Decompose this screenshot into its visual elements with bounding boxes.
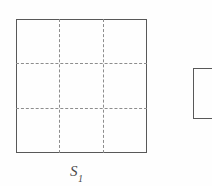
square-s1-outline — [16, 19, 147, 153]
square-s1-label-base: S — [70, 163, 78, 179]
square-s1-horizontal-divider-2 — [16, 108, 147, 109]
square-s1-vertical-divider-2 — [103, 19, 104, 153]
square-s1-label-subscript: 1 — [78, 173, 83, 184]
figure-canvas: S1 — [0, 0, 212, 186]
square-partial-outline — [193, 68, 212, 119]
square-s1-horizontal-divider-1 — [16, 63, 147, 64]
square-s1-label: S1 — [70, 164, 83, 182]
square-s1-vertical-divider-1 — [59, 19, 60, 153]
